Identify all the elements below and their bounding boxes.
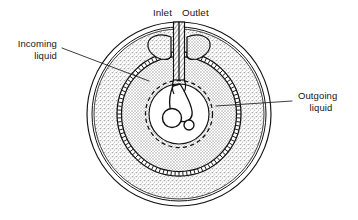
label-outgoing-line1: Outgoing: [298, 90, 337, 101]
label-outlet: Outlet: [182, 7, 209, 18]
label-incoming-line2: liquid: [34, 50, 57, 61]
label-incoming-line1: Incoming: [18, 38, 57, 49]
separator-bowl-diagram: Inlet Outlet Incoming liquid Outgoing li…: [0, 0, 358, 220]
figure-container: Inlet Outlet Incoming liquid Outgoing li…: [0, 0, 358, 220]
label-inlet: Inlet: [153, 7, 172, 18]
label-outgoing-line2: liquid: [310, 102, 333, 113]
large-core-circle: [163, 109, 182, 128]
small-core-circle: [184, 120, 194, 130]
